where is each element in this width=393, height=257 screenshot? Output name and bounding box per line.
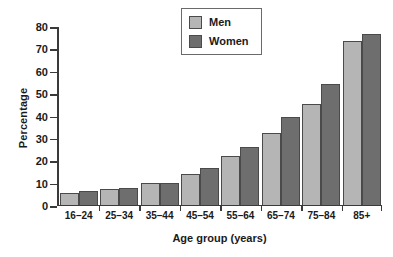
x-tick-label: 65–74 <box>261 210 301 221</box>
legend-item-men: Men <box>189 14 249 30</box>
bar-women <box>321 84 340 205</box>
bar-men <box>181 174 200 204</box>
bar-women <box>240 147 259 204</box>
y-tick-label: 40 <box>36 111 48 123</box>
y-tick-mark <box>50 161 57 163</box>
y-tick-label: 30 <box>36 133 48 145</box>
x-tick-label: 25–34 <box>99 210 139 221</box>
y-tick-mark <box>50 49 57 51</box>
y-tick-label: 10 <box>36 178 48 190</box>
x-tick-label: 35–44 <box>139 210 179 221</box>
y-tick-label: 80 <box>36 21 48 33</box>
x-tick-label: 45–54 <box>180 210 220 221</box>
legend: Men Women <box>181 8 262 55</box>
bar-women <box>200 168 219 205</box>
bar-men <box>302 104 321 205</box>
x-axis-title: Age group (years) <box>57 232 382 244</box>
bar-men <box>141 183 160 204</box>
x-tick-label: 85+ <box>342 210 382 221</box>
x-tick-label: 16–24 <box>59 210 99 221</box>
y-tick-mark <box>50 184 57 186</box>
legend-label-men: Men <box>209 16 231 28</box>
bar-women <box>160 183 179 204</box>
y-tick-mark <box>50 117 57 119</box>
legend-label-women: Women <box>209 35 249 47</box>
y-tick-mark <box>50 206 57 208</box>
bar-group <box>99 27 139 205</box>
bar-men <box>221 156 240 204</box>
y-tick-label: 50 <box>36 88 48 100</box>
bar-men <box>343 41 362 204</box>
bar-men <box>262 133 281 205</box>
bar-group <box>301 27 341 205</box>
legend-swatch-men <box>189 16 202 29</box>
bar-men <box>100 189 119 205</box>
y-tick-label: 20 <box>36 155 48 167</box>
legend-item-women: Women <box>189 33 249 49</box>
bar-chart: Percentage 01020304050607080 16–2425–343… <box>0 0 393 257</box>
y-tick-mark <box>50 139 57 141</box>
bar-men <box>60 193 79 204</box>
bar-women <box>362 34 381 204</box>
y-tick-mark <box>50 27 57 29</box>
bar-women <box>79 191 98 204</box>
x-tick-label: 75–84 <box>301 210 341 221</box>
x-tick-label: 55–64 <box>220 210 260 221</box>
y-tick-label: 70 <box>36 43 48 55</box>
bar-group <box>261 27 301 205</box>
y-tick-mark <box>50 94 57 96</box>
y-tick-label: 0 <box>42 200 48 212</box>
bar-group <box>59 27 99 205</box>
y-tick-label: 60 <box>36 66 48 78</box>
bar-group <box>342 27 382 205</box>
y-tick-mark <box>50 72 57 74</box>
bar-group <box>139 27 179 205</box>
bar-women <box>281 117 300 204</box>
bar-women <box>119 188 138 205</box>
y-axis-title: Percentage <box>17 58 29 178</box>
legend-swatch-women <box>189 35 202 48</box>
x-axis-tick-labels: 16–2425–3435–4445–5455–6465–7475–8485+ <box>59 210 383 221</box>
